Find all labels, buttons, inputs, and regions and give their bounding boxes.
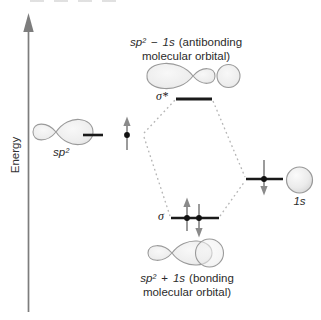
dashed-line-sigma-to-1s — [220, 181, 245, 216]
one-s-energy-level — [246, 160, 283, 196]
dashed-line-sp2-to-sigma-star — [144, 100, 175, 133]
caption-text: (antibonding — [179, 36, 242, 48]
formula-1s: 1s — [163, 36, 175, 48]
formula-sp2: sp² — [140, 272, 156, 284]
energy-axis — [23, 13, 33, 312]
antibonding-caption: sp²−1s(antibonding molecular orbital) — [91, 35, 281, 63]
sigma-label: σ — [158, 210, 164, 222]
plus-operator: + — [161, 272, 168, 284]
dashed-line-sigma-star-to-1s — [213, 101, 245, 177]
one-s-orbital-label: 1s — [289, 195, 310, 207]
minus-operator: − — [151, 36, 158, 48]
bonding-caption-line1: sp²+1s(bonding — [92, 271, 282, 285]
formula-1s: 1s — [173, 272, 185, 284]
energy-axis-arrowhead-icon — [23, 13, 33, 32]
antibonding-caption-line2: molecular orbital) — [91, 49, 281, 63]
sp2-orbital-label: sp² — [46, 146, 76, 158]
spin-down-arrowhead-icon — [195, 228, 202, 238]
energy-axis-label: Energy — [9, 114, 21, 196]
formula-sp2: sp² — [130, 36, 146, 48]
bonding-orbital — [148, 239, 224, 267]
electron-dot — [124, 132, 130, 138]
bonding-caption: sp²+1s(bonding molecular orbital) — [92, 271, 282, 299]
one-s-atomic-orbital — [287, 167, 313, 193]
electron-dot — [184, 215, 190, 221]
spin-up-arrowhead-icon — [183, 198, 190, 208]
antibonding-caption-line1: sp²−1s(antibonding — [91, 35, 281, 49]
spin-up-arrowhead-icon — [123, 117, 130, 127]
sigma-star-label: σ* — [156, 90, 168, 102]
sigma-level — [171, 198, 219, 238]
spin-down-arrowhead-icon — [260, 186, 267, 196]
sp2-atomic-orbital — [33, 119, 93, 144]
mo-energy-diagram: Energy sp²−1s(antibonding molecular orbi… — [0, 0, 321, 320]
dashed-line-sp2-to-sigma — [144, 137, 170, 216]
antibonding-orbital — [147, 63, 240, 88]
electron-dot — [261, 176, 267, 182]
electron-dot — [196, 215, 202, 221]
caption-text: (bonding — [189, 272, 234, 284]
bonding-caption-line2: molecular orbital) — [92, 285, 282, 299]
